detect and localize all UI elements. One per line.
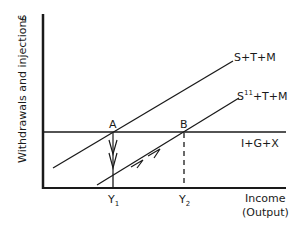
withdrawals-original-label: S+T+M [234, 51, 276, 64]
x-axis-label-line2: (Output) [242, 206, 289, 219]
x-axis-label-line1: Income [245, 192, 286, 205]
point-b-label: B [180, 118, 188, 131]
withdrawals-line-shifted [97, 98, 239, 185]
withdrawals-injections-diagram: Withdrawals and injections £ A B S+T+M S… [0, 0, 300, 230]
withdrawals-shifted-label: S11+T+M [237, 89, 288, 103]
injections-label: I+G+X [241, 137, 279, 150]
point-a-label: A [109, 118, 117, 131]
y1-label: Y1 [107, 193, 119, 208]
y-axis-unit: £ [17, 15, 28, 22]
y-axis-label: Withdrawals and injections [16, 15, 29, 163]
withdrawals-line-original [53, 61, 233, 168]
y2-label: Y2 [178, 193, 190, 208]
